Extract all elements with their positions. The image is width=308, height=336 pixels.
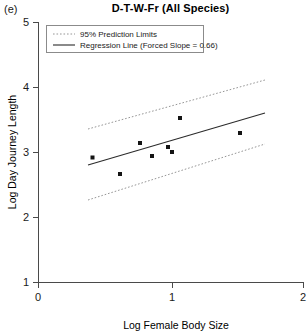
y-tick-label: 2 bbox=[23, 211, 29, 223]
data-point bbox=[166, 145, 170, 149]
chart-legend: 95% Prediction Limits Regression Line (F… bbox=[46, 25, 218, 52]
data-point bbox=[91, 156, 95, 160]
scatter-plot: 5 4 3 2 1 0 1 2 Log Female Body Size Log… bbox=[0, 0, 308, 336]
y-axis-tick-labels: 5 4 3 2 1 bbox=[23, 16, 29, 288]
data-points bbox=[91, 116, 243, 176]
x-tick-label: 0 bbox=[35, 291, 41, 303]
legend-label-regression-line: Regression Line (Forced Slope = 0.66) bbox=[80, 41, 218, 50]
prediction-limit-lower bbox=[88, 144, 265, 200]
y-tick-label: 5 bbox=[23, 16, 29, 28]
x-axis-ticks bbox=[38, 282, 303, 288]
chart-figure: (e) D-T-W-Fr (All Species) 5 4 3 2 1 0 bbox=[0, 0, 308, 336]
data-point bbox=[138, 141, 142, 145]
y-tick-label: 3 bbox=[23, 146, 29, 158]
regression-line bbox=[88, 113, 265, 165]
data-point bbox=[170, 150, 174, 154]
prediction-limit-upper bbox=[88, 80, 265, 129]
x-tick-label: 2 bbox=[300, 291, 306, 303]
x-axis-title: Log Female Body Size bbox=[123, 319, 229, 331]
x-tick-label: 1 bbox=[169, 291, 175, 303]
x-axis-tick-labels: 0 1 2 bbox=[35, 291, 306, 303]
data-point bbox=[238, 131, 242, 135]
legend-label-prediction-limits: 95% Prediction Limits bbox=[80, 30, 157, 39]
y-tick-label: 4 bbox=[23, 81, 29, 93]
y-tick-label: 1 bbox=[23, 276, 29, 288]
data-point bbox=[150, 154, 154, 158]
y-axis-title: Log Day Journey Length bbox=[6, 95, 18, 210]
data-point bbox=[118, 172, 122, 176]
y-axis-ticks bbox=[33, 22, 38, 282]
data-point bbox=[178, 116, 182, 120]
